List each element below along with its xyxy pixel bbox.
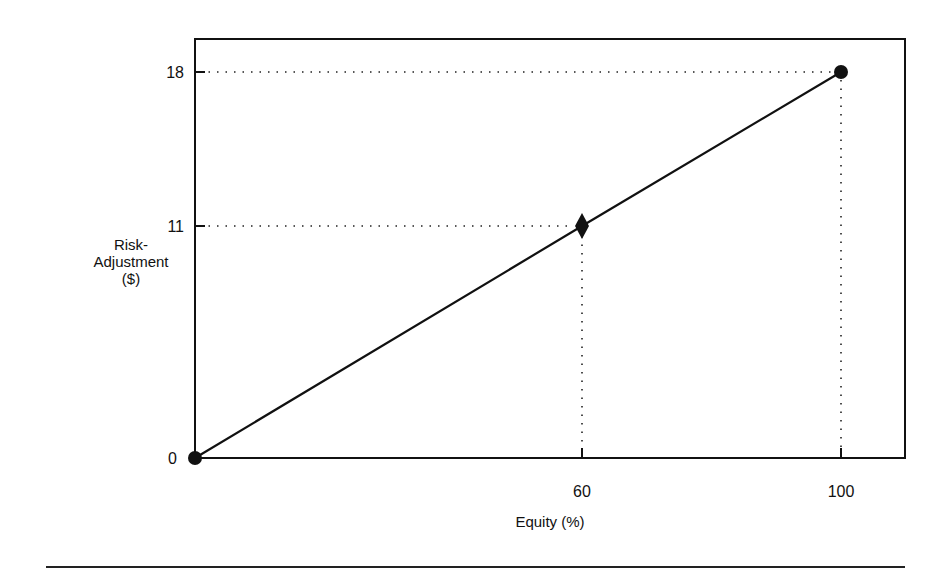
x-axis-label: Equity (%) (515, 513, 584, 530)
y-axis-label-line3: ($) (122, 270, 140, 287)
data-point-diamond (575, 213, 589, 239)
x-tick-60: 60 (573, 483, 591, 500)
data-point-origin (188, 451, 202, 465)
y-axis-label-line2: Adjustment (93, 253, 169, 270)
y-tick-18: 18 (166, 64, 184, 81)
y-tick-0: 0 (168, 450, 177, 467)
data-point-max (834, 65, 848, 79)
series-line (195, 72, 841, 458)
chart-canvas: 18 11 0 Risk- Adjustment ($) 60 100 Equi… (0, 0, 950, 577)
y-axis-label-line1: Risk- (114, 236, 148, 253)
x-tick-100: 100 (828, 483, 855, 500)
y-tick-11: 11 (167, 218, 184, 235)
